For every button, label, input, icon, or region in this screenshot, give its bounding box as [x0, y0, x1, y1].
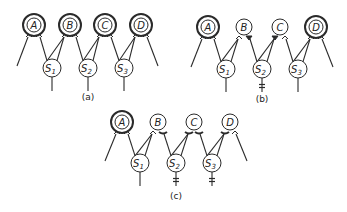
synapse-open-icon: [236, 36, 242, 39]
unit-A: A: [23, 14, 45, 36]
hidden-unit-S2: S2: [253, 60, 271, 92]
unit-D: D: [222, 114, 238, 130]
hidden-unit-S1: S1: [43, 59, 61, 91]
unit-label: B: [155, 117, 162, 128]
synapse-bar-icon: [195, 132, 203, 134]
dangling-line: [147, 37, 158, 66]
hidden-unit-S3: S3: [115, 59, 133, 91]
connection-line: [250, 39, 257, 62]
dangling-line: [191, 39, 202, 67]
connection-line: [200, 134, 207, 156]
dangling-line: [105, 134, 116, 161]
connection-line: [303, 39, 310, 62]
unit-label: A: [118, 117, 126, 128]
synapse-filled-icon: [246, 36, 252, 40]
unit-D: D: [130, 14, 152, 36]
unit-label: C: [191, 117, 198, 128]
hidden-unit-S3: S3: [289, 60, 307, 92]
unit-label: D: [312, 22, 320, 33]
connection-line: [128, 134, 135, 156]
synapse-open-icon: [282, 36, 288, 39]
connection-line: [119, 37, 135, 61]
panel-caption: (c): [170, 191, 182, 201]
unit-label: D: [226, 117, 234, 128]
unit-label: A: [204, 22, 212, 33]
unit-label: D: [137, 20, 145, 31]
synapse-filled-icon: [272, 36, 278, 40]
connection-line: [181, 134, 188, 156]
unit-A: A: [111, 111, 133, 133]
connection-line: [293, 39, 310, 62]
connection-line: [221, 39, 238, 62]
unit-C: C: [94, 14, 116, 36]
unit-label: B: [241, 22, 248, 33]
connection-line: [47, 37, 64, 61]
panel-caption: (b): [256, 94, 269, 104]
synapse-open-icon: [232, 131, 238, 134]
hidden-unit-S1: S1: [131, 154, 149, 186]
hidden-unit-S2: S2: [167, 154, 185, 186]
connection-line: [135, 134, 152, 156]
panel-a: ABCDS1S2S3(a): [17, 14, 158, 102]
unit-label: A: [30, 20, 38, 31]
connection-line: [145, 134, 152, 156]
connection-line: [40, 37, 47, 61]
synapse-bar-icon: [185, 132, 193, 134]
connection-line: [231, 39, 238, 62]
dangling-line: [236, 134, 247, 161]
unit-B: B: [236, 19, 252, 35]
connection-line: [83, 37, 99, 61]
unit-label: C: [102, 20, 109, 31]
connection-line: [286, 39, 293, 62]
connection-line: [257, 39, 274, 62]
panel-b: ABCDS1S2S3(b): [191, 16, 333, 104]
unit-label: B: [67, 20, 74, 31]
dangling-line: [17, 37, 28, 66]
unit-A: A: [197, 16, 219, 38]
synapse-bar-icon: [159, 132, 167, 134]
hidden-unit-S3: S3: [203, 154, 221, 186]
panel-caption: (a): [82, 92, 95, 102]
network-diagram: ABCDS1S2S3(a)ABCDS1S2S3(b)ABCDS1S2S3(c): [0, 0, 347, 212]
connection-line: [76, 37, 83, 61]
dangling-line: [322, 39, 333, 67]
connection-line: [217, 134, 224, 156]
unit-C: C: [186, 114, 202, 130]
connection-line: [214, 39, 221, 62]
unit-C: C: [272, 19, 288, 35]
connection-line: [207, 134, 224, 156]
hidden-unit-S1: S1: [217, 60, 235, 92]
hidden-unit-S2: S2: [79, 59, 97, 91]
connection-line: [111, 37, 119, 61]
connection-line: [57, 37, 64, 61]
connection-line: [171, 134, 188, 156]
connection-line: [267, 39, 274, 62]
unit-B: B: [150, 114, 166, 130]
unit-B: B: [59, 14, 81, 36]
figure: ABCDS1S2S3(a)ABCDS1S2S3(b)ABCDS1S2S3(c): [0, 0, 347, 212]
synapse-open-icon: [150, 131, 156, 134]
unit-label: C: [277, 22, 284, 33]
panel-c: ABCDS1S2S3(c): [105, 111, 247, 201]
unit-D: D: [305, 16, 327, 38]
synapse-bar-icon: [221, 132, 229, 134]
connection-line: [164, 134, 171, 156]
